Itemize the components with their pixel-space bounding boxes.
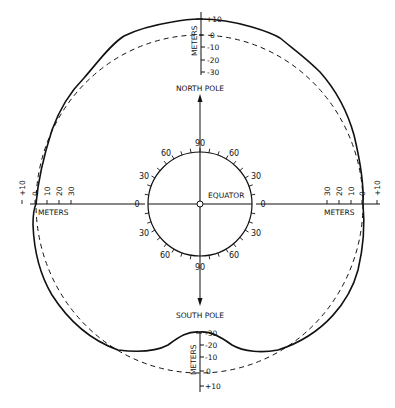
bottom-scale-minus30: -30 [205,329,217,338]
geoid-curve [33,19,364,352]
geoid-diagram: 90 90 60 60 30 30 0 0 30 30 60 60 NORTH … [0,0,395,408]
left-meters-scale: +10 0 10 20 30 METERS [18,180,76,217]
bottom-scale-plus10: +10 [205,382,221,391]
left-scale-plus10: +10 [18,180,27,196]
bottom-scale-minus10: -10 [205,353,217,362]
right-scale-20: 20 [335,186,344,196]
right-scale-30: 30 [323,186,332,196]
top-scale-minus20: -20 [207,56,219,65]
right-scale-plus10: +10 [373,180,382,196]
inner-globe [145,148,255,259]
north-pole-label: NORTH POLE [176,84,224,93]
top-meters-scale: +10 0 -10 -20 -30 METERS [190,12,222,77]
lat-90-bottom-label: 90 [195,263,205,272]
right-meters-label: METERS [324,208,355,217]
right-scale-0: 0 [358,191,367,196]
top-scale-minus10: -10 [207,43,219,52]
south-arrow-icon [198,298,203,306]
left-scale-10: 10 [43,186,52,196]
bottom-scale-0: 0 [206,367,211,376]
lat-90-top-label: 90 [195,139,205,148]
lat-30-ll-label: 30 [139,229,149,238]
top-meters-label: METERS [190,25,199,56]
left-scale-0: 0 [31,191,40,196]
top-scale-plus10: +10 [206,15,222,24]
bottom-meters-label: METERS [189,344,198,375]
lat-60-ll-label: 60 [160,251,170,260]
left-meters-label: METERS [38,208,69,217]
lat-30-ul-label: 30 [139,172,149,181]
south-pole-label: SOUTH POLE [176,311,224,320]
north-arrow-icon [198,94,203,102]
top-scale-0: 0 [210,31,215,40]
lat-60-ur-label: 60 [229,149,239,158]
bottom-scale-minus20: -20 [205,341,217,350]
left-scale-30: 30 [67,186,76,196]
right-meters-scale: 30 20 10 0 +10 METERS [323,180,382,217]
lat-60-lr-label: 60 [229,251,239,260]
earth-center-icon [197,201,203,207]
right-scale-10: 10 [347,186,356,196]
bottom-meters-scale: -30 -20 -10 0 +10 METERS [189,329,221,392]
lat-0-right-label: 0 [260,200,265,209]
lat-60-ul-label: 60 [161,149,171,158]
lat-30-ur-label: 30 [251,172,261,181]
left-scale-20: 20 [55,186,64,196]
lat-0-left-label: 0 [134,200,139,209]
top-scale-minus30: -30 [207,68,219,77]
equator-label: EQUATOR [208,191,244,200]
lat-30-lr-label: 30 [251,229,261,238]
